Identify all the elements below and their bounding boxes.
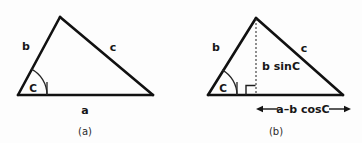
panel-b-caption: (b) xyxy=(269,126,283,137)
panel-b-label-b: b xyxy=(212,41,220,54)
panel-b-label-height: b sinC xyxy=(262,60,300,73)
panel-a-caption: (a) xyxy=(78,126,92,137)
panel-a-label-a: a xyxy=(81,104,88,117)
geometry-figure: b c a C (a) xyxy=(0,0,362,143)
panel-a-side-c-line xyxy=(60,17,153,95)
panel-b-side-c-line xyxy=(256,18,343,95)
panel-a: b c a C (a) xyxy=(18,17,153,137)
panel-b-label-c: c xyxy=(301,42,308,55)
figure-canvas: b c a C (a) xyxy=(0,0,362,143)
panel-b-side-b-line xyxy=(208,18,256,95)
panel-b-arrow-right-icon xyxy=(344,106,351,112)
panel-b-label-angle-c: C xyxy=(219,82,227,94)
panel-b-label-base-segment: a–b cosC xyxy=(276,103,329,116)
panel-b-right-angle-marker-icon xyxy=(246,86,256,96)
panel-a-label-b: b xyxy=(22,40,30,53)
panel-a-label-c: c xyxy=(110,41,117,54)
panel-b: b c C b sinC a–b cosC (b) xyxy=(208,18,351,137)
panel-a-label-angle-c: C xyxy=(29,82,37,94)
panel-a-side-b-line xyxy=(18,17,60,95)
panel-b-arrow-left-icon xyxy=(256,106,263,112)
